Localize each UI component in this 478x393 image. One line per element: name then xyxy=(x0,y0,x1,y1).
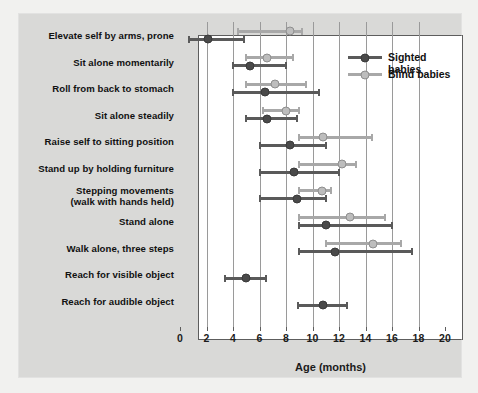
x-tick-label: 0 xyxy=(177,332,183,344)
median-marker xyxy=(246,61,255,70)
x-tick-mark xyxy=(419,327,420,331)
range-bar xyxy=(299,224,392,227)
x-tick-mark xyxy=(366,327,367,331)
x-tick-mark xyxy=(180,327,181,331)
range-cap xyxy=(259,169,261,176)
range-cap xyxy=(346,302,348,309)
median-marker xyxy=(319,133,328,142)
median-marker xyxy=(285,27,294,36)
range-bar xyxy=(233,64,286,67)
x-tick-label: 2 xyxy=(203,332,209,344)
range-cap xyxy=(325,142,327,149)
range-cap xyxy=(325,195,327,202)
category-label: Walk alone, three steps xyxy=(8,243,180,255)
category-label: Reach for audible object xyxy=(8,296,180,308)
x-tick-mark xyxy=(260,327,261,331)
category-label: Stepping movements(walk with hands held) xyxy=(8,184,180,207)
median-marker xyxy=(271,80,280,89)
median-marker xyxy=(242,274,251,283)
range-cap xyxy=(325,240,327,247)
range-cap xyxy=(245,54,247,61)
range-cap xyxy=(338,169,340,176)
median-marker xyxy=(317,186,326,195)
range-cap xyxy=(285,62,287,69)
chart-legend: Sighted babies Blind babies xyxy=(348,49,456,83)
category-label-line: Sit alone momentarily xyxy=(8,57,174,69)
median-marker xyxy=(337,160,346,169)
category-label: Elevate self by arms, prone xyxy=(8,30,180,42)
range-bar xyxy=(299,163,356,166)
median-marker xyxy=(369,239,378,248)
median-marker xyxy=(292,194,301,203)
x-tick-mark xyxy=(207,327,208,331)
median-marker xyxy=(203,35,212,44)
range-cap xyxy=(259,195,261,202)
range-cap xyxy=(232,62,234,69)
range-cap xyxy=(296,115,298,122)
range-bar xyxy=(299,189,331,192)
x-tick-label: 8 xyxy=(283,332,289,344)
category-label: Stand up by holding furniture xyxy=(8,163,180,175)
gridline xyxy=(207,22,208,327)
chart-panel: 02468101214161820 Elevate self by arms, … xyxy=(18,13,462,378)
range-cap xyxy=(243,36,245,43)
x-tick-mark xyxy=(392,327,393,331)
range-cap xyxy=(305,81,307,88)
x-tick-mark xyxy=(313,327,314,331)
median-marker xyxy=(289,168,298,177)
x-tick-label: 4 xyxy=(230,332,236,344)
chart-root: 02468101214161820 Elevate self by arms, … xyxy=(0,0,478,393)
range-cap xyxy=(301,28,303,35)
range-cap xyxy=(391,222,393,229)
median-marker xyxy=(263,114,272,123)
category-label: Stand alone xyxy=(8,216,180,228)
category-label: Raise self to sitting position xyxy=(8,137,180,149)
range-cap xyxy=(330,187,332,194)
category-label: Sit alone steadily xyxy=(8,110,180,122)
range-bar xyxy=(299,216,385,219)
median-marker xyxy=(285,141,294,150)
range-bar xyxy=(189,38,243,41)
category-label: Sit alone momentarily xyxy=(8,57,180,69)
range-cap xyxy=(318,89,320,96)
x-tick-label: 6 xyxy=(256,332,262,344)
x-tick-label: 18 xyxy=(412,332,424,344)
category-label-line: Stand alone xyxy=(8,216,174,228)
gridline xyxy=(313,22,314,327)
range-cap xyxy=(298,134,300,141)
range-cap xyxy=(292,54,294,61)
range-bar xyxy=(233,91,319,94)
category-label-line: Sit alone steadily xyxy=(8,110,174,122)
range-bar xyxy=(326,242,402,245)
range-cap xyxy=(262,107,264,114)
legend-dot-icon xyxy=(361,53,370,62)
range-bar xyxy=(299,250,412,253)
range-bar xyxy=(260,171,340,174)
range-cap xyxy=(384,214,386,221)
range-cap xyxy=(265,275,267,282)
legend-item-blind: Blind babies xyxy=(348,66,456,83)
category-label-line: Roll from back to stomach xyxy=(8,83,174,95)
x-tick-label: 12 xyxy=(333,332,345,344)
range-cap xyxy=(298,214,300,221)
category-label-line: Stepping movements xyxy=(8,184,174,196)
range-cap xyxy=(297,302,299,309)
range-cap xyxy=(237,28,239,35)
range-cap xyxy=(400,240,402,247)
category-label-line: Reach for audible object xyxy=(8,296,174,308)
category-label-line: Reach for visible object xyxy=(8,270,174,282)
median-marker xyxy=(331,247,340,256)
range-cap xyxy=(298,107,300,114)
range-cap xyxy=(232,89,234,96)
category-label: Reach for visible object xyxy=(8,270,180,282)
legend-dot-icon xyxy=(361,70,370,79)
x-tick-mark xyxy=(233,327,234,331)
x-tick-label: 10 xyxy=(306,332,318,344)
range-cap xyxy=(298,222,300,229)
category-label-line: Stand up by holding furniture xyxy=(8,163,174,175)
range-cap xyxy=(298,248,300,255)
category-label-line: Walk alone, three steps xyxy=(8,243,174,255)
x-tick-label: 14 xyxy=(359,332,371,344)
range-cap xyxy=(245,115,247,122)
x-tick-label: 20 xyxy=(439,332,451,344)
